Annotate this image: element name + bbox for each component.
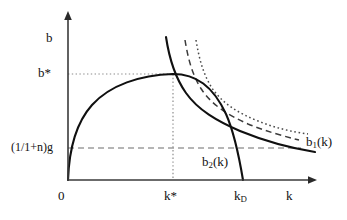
curve-dashed-variant bbox=[185, 40, 299, 140]
curve-b2-subscript: 2 bbox=[209, 160, 213, 170]
k-star-label: k* bbox=[164, 189, 177, 202]
b-star-label: b* bbox=[38, 66, 51, 79]
curve-b1-subscript: 1 bbox=[313, 140, 317, 150]
k-d-subscript: D bbox=[241, 194, 247, 204]
x-axis-label: k bbox=[286, 189, 293, 202]
curve-b2-label: b2(k) bbox=[202, 155, 228, 168]
curve-dotted-variant bbox=[196, 40, 308, 134]
curve-b2-base: b bbox=[202, 154, 209, 169]
k-d-label: kD bbox=[234, 189, 247, 202]
x-axis-arrowhead bbox=[308, 176, 317, 184]
curve-b1-arg: (k) bbox=[317, 134, 332, 149]
curve-b1-base: b bbox=[306, 134, 313, 149]
origin-label: 0 bbox=[58, 189, 65, 202]
k-d-base: k bbox=[234, 188, 241, 203]
curve-b1-label: b1(k) bbox=[306, 135, 332, 148]
golden-rule-label: (1/1+n)g bbox=[11, 141, 53, 153]
figure-container: b b* (1/1+n)g 0 k* kD k b1(k) b2(k) bbox=[0, 0, 347, 220]
curve-b2-arg: (k) bbox=[213, 154, 228, 169]
y-axis-arrowhead bbox=[64, 11, 72, 20]
y-axis-label: b bbox=[46, 31, 53, 44]
